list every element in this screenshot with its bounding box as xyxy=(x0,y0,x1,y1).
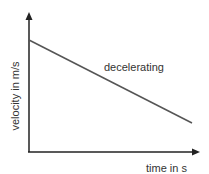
decelerating-line xyxy=(29,40,192,123)
y-axis-label: velocity in m/s xyxy=(9,46,21,146)
velocity-time-graph xyxy=(0,0,209,174)
line-annotation: decelerating xyxy=(104,61,164,73)
y-axis-arrow-icon xyxy=(26,12,33,20)
x-axis-arrow-icon xyxy=(192,149,200,156)
x-axis-label: time in s xyxy=(146,162,187,174)
